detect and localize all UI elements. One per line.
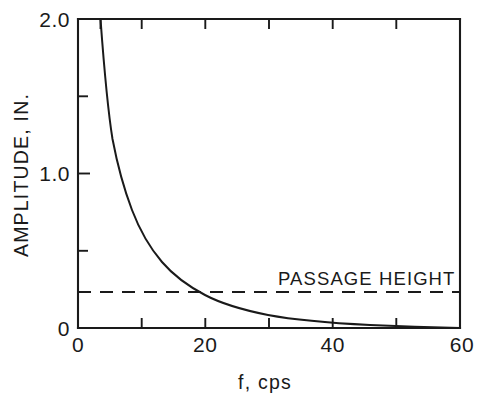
chart-figure: 0 20 40 60 0 1.0 2.0 f, cps AMPLITUDE, I…	[0, 0, 487, 402]
x-tick-label-20: 20	[193, 333, 217, 356]
x-tick-label-40: 40	[321, 333, 345, 356]
x-axis-title: f, cps	[238, 371, 292, 393]
y-tick-marks	[78, 96, 90, 251]
x-tick-label-60: 60	[450, 333, 474, 356]
x-tick-label-0: 0	[72, 333, 84, 356]
chart-canvas: 0 20 40 60 0 1.0 2.0 f, cps AMPLITUDE, I…	[0, 0, 487, 402]
y-axis-title: AMPLITUDE, IN.	[10, 93, 32, 257]
y-tick-labels: 0 1.0 2.0	[39, 8, 70, 340]
y-tick-label-2p0: 2.0	[39, 8, 70, 31]
x-tick-labels: 0 20 40 60	[72, 333, 474, 356]
y-tick-label-0: 0	[58, 317, 70, 340]
y-tick-label-1p0: 1.0	[39, 162, 70, 185]
passage-height-label: PASSAGE HEIGHT	[278, 268, 455, 289]
